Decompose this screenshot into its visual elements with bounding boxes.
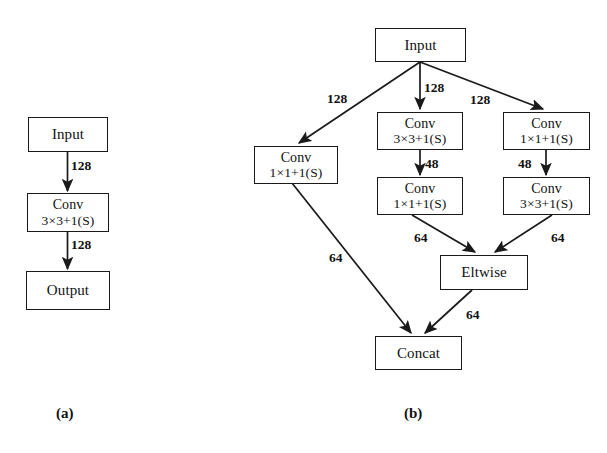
node-b-right-conv2-line2: 3×3+1(S) bbox=[520, 196, 573, 211]
edge-label-b-eltwise-64: 64 bbox=[466, 307, 480, 323]
node-b-right-conv1-line2: 1×1+1(S) bbox=[520, 131, 573, 146]
node-b-right-conv1-line1: Conv bbox=[531, 116, 562, 132]
architecture-figure: Input Conv 3×3+1(S) Output 128 128 Input… bbox=[0, 0, 607, 453]
edge-label-b-input-right: 128 bbox=[470, 92, 490, 108]
caption-b: (b) bbox=[404, 405, 422, 422]
node-b-mid-conv1-line1: Conv bbox=[405, 116, 436, 132]
node-a-input-label: Input bbox=[52, 126, 84, 143]
node-a-output-label: Output bbox=[47, 282, 89, 299]
edge-label-b-input-mid: 128 bbox=[424, 80, 444, 96]
node-b-input: Input bbox=[375, 28, 466, 62]
caption-a: (a) bbox=[56, 405, 74, 422]
node-b-eltwise-label: Eltwise bbox=[461, 264, 507, 281]
node-b-concat: Concat bbox=[375, 336, 462, 370]
node-b-left-conv-line2: 1×1+1(S) bbox=[270, 165, 323, 180]
node-b-input-label: Input bbox=[404, 37, 436, 54]
node-a-output: Output bbox=[26, 271, 110, 310]
node-b-left-conv: Conv 1×1+1(S) bbox=[254, 146, 338, 184]
node-b-concat-label: Concat bbox=[397, 345, 440, 362]
edge-label-a-input-conv: 128 bbox=[71, 158, 91, 174]
edge-label-a-conv-output: 128 bbox=[71, 237, 91, 253]
edge-label-b-left-64: 64 bbox=[329, 250, 343, 266]
edge-label-b-mid-48: 48 bbox=[425, 156, 439, 172]
edge-label-b-mid-64: 64 bbox=[414, 230, 428, 246]
node-a-conv-label-line2: 3×3+1(S) bbox=[42, 213, 95, 228]
edge-label-b-right-64: 64 bbox=[551, 230, 565, 246]
edge-b-right-conv2-to-eltwise bbox=[495, 215, 552, 252]
node-a-conv-label-line1: Conv bbox=[53, 197, 84, 213]
node-b-left-conv-line1: Conv bbox=[281, 150, 312, 166]
node-b-mid-conv1: Conv 3×3+1(S) bbox=[377, 112, 463, 150]
node-b-right-conv2: Conv 3×3+1(S) bbox=[503, 177, 590, 215]
node-a-input: Input bbox=[28, 117, 108, 152]
node-b-right-conv2-line1: Conv bbox=[531, 181, 562, 197]
node-b-mid-conv2: Conv 1×1+1(S) bbox=[377, 177, 463, 215]
edge-label-b-input-left: 128 bbox=[327, 91, 347, 107]
node-b-mid-conv2-line1: Conv bbox=[405, 181, 436, 197]
edge-label-b-right-48: 48 bbox=[518, 156, 532, 172]
node-a-conv: Conv 3×3+1(S) bbox=[27, 193, 109, 232]
node-b-mid-conv2-line2: 1×1+1(S) bbox=[394, 196, 447, 211]
node-b-mid-conv1-line2: 3×3+1(S) bbox=[394, 131, 447, 146]
node-b-right-conv1: Conv 1×1+1(S) bbox=[503, 112, 590, 150]
node-b-eltwise: Eltwise bbox=[440, 255, 528, 290]
edge-b-eltwise-to-concat bbox=[425, 290, 472, 333]
